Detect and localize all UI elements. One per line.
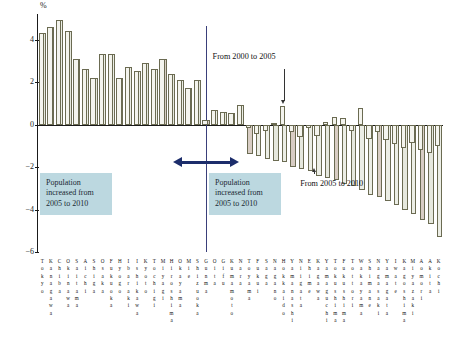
x-axis-label: Nagano <box>271 258 279 302</box>
bar-2000-2005 <box>435 125 440 146</box>
x-axis-label: Hiroshima <box>168 258 176 325</box>
x-axis-label: Gunma <box>202 258 210 295</box>
bar-2000-2005 <box>358 108 363 125</box>
x-axis-labels: TokyoKanagawaChibaOkinawaSaitamaAichiShi… <box>38 258 443 314</box>
x-axis-label: Okayama <box>176 258 184 310</box>
x-axis-label: Fukushima <box>340 258 348 325</box>
bar-2000-2005 <box>99 54 104 124</box>
bar-2000-2005 <box>340 118 345 124</box>
x-axis-label: Aichi <box>81 258 89 295</box>
bar-2000-2005 <box>73 59 78 125</box>
bar-2000-2005 <box>383 125 388 141</box>
x-axis-label: Kochi <box>435 258 443 295</box>
x-axis-label: Niigata <box>297 258 305 310</box>
bar-2000-2005 <box>314 125 319 137</box>
bar-2000-2005 <box>65 31 70 125</box>
x-axis-label: Akita <box>426 258 434 295</box>
x-axis-label: Kagoshima <box>400 258 408 325</box>
bar-2000-2005 <box>254 125 259 135</box>
bar-2000-2005 <box>220 112 225 125</box>
bar-2005-2010 <box>325 125 330 178</box>
x-axis-label: Shiga <box>90 258 98 295</box>
x-axis-label: Iwate <box>392 258 400 295</box>
x-axis-label: Saitama <box>73 258 81 310</box>
bar-2005-2010 <box>377 125 382 197</box>
bar-2000-2005 <box>116 78 121 125</box>
bar-2000-2005 <box>246 125 251 128</box>
bar-group <box>38 14 443 252</box>
bar-2000-2005 <box>306 125 311 128</box>
x-axis-label: Miyagi <box>159 258 167 302</box>
bar-2000-2005 <box>82 69 87 124</box>
bar-2000-2005 <box>375 125 380 132</box>
x-axis-label: Yamanashi <box>288 258 296 325</box>
bar-2000-2005 <box>56 20 61 124</box>
x-axis-label: Okinawa <box>64 258 72 310</box>
bar-2000-2005 <box>168 74 173 125</box>
bar-2005-2010 <box>351 125 356 187</box>
annotation-box-left: Population increased from 2005 to 2010 <box>40 173 112 215</box>
population-change-chart: % 420−2−4−6 Population increased from 20… <box>0 0 453 357</box>
arrow-right-head <box>230 157 239 167</box>
bar-2000-2005 <box>280 106 285 124</box>
bar-2000-2005 <box>263 125 268 131</box>
x-axis-label: Tochigi <box>150 258 158 310</box>
x-axis-label: Osaka <box>99 258 107 295</box>
x-axis-label: Toyama <box>245 258 253 302</box>
bar-2005-2010 <box>282 125 287 162</box>
bar-2000-2005 <box>297 125 302 138</box>
bar-2000-2005 <box>366 125 371 140</box>
x-axis-label: Mie <box>185 258 193 280</box>
bar-2000-2005 <box>323 122 328 124</box>
x-axis-label: Wakayama <box>357 258 365 317</box>
bar-2005-2010 <box>273 125 278 161</box>
bar-2000-2005 <box>332 117 337 124</box>
bar-2000-2005 <box>237 105 242 124</box>
x-axis-label: Kumamoto <box>228 258 236 317</box>
x-axis-label: Ishikawa <box>133 258 141 317</box>
x-axis-label: Nagasaki <box>374 258 382 317</box>
callout-from-2000-to-2005: From 2000 to 2005 <box>213 52 276 61</box>
bar-2000-2005 <box>185 88 190 124</box>
callout-top-arrowhead <box>281 100 285 104</box>
bar-2000-2005 <box>134 71 139 124</box>
arrow-shaft <box>180 161 232 164</box>
x-axis-label: Shimane <box>366 258 374 310</box>
x-axis-label: Miyazaki <box>409 258 417 317</box>
x-axis-label: Saga <box>262 258 270 288</box>
bar-2000-2005 <box>142 63 147 125</box>
y-axis-unit-label: % <box>40 2 47 10</box>
callout-bottom-arrowhead <box>312 168 316 172</box>
callout-top-leader-line <box>284 69 285 101</box>
x-axis-label: Tottori <box>349 258 357 310</box>
bar-2000-2005 <box>271 123 276 125</box>
y-tick-mark <box>35 252 39 253</box>
bar-2000-2005 <box>289 125 294 132</box>
x-axis-label: Oita <box>211 258 219 288</box>
callout-from-2005-to-2010: From 2005 to 2010 <box>300 179 363 188</box>
bar-2005-2010 <box>334 125 339 180</box>
bar-2000-2005 <box>401 125 406 148</box>
bar-2000-2005 <box>159 59 164 125</box>
bar-2005-2010 <box>342 125 347 185</box>
x-axis-label: Ehime <box>305 258 313 295</box>
bar-2000-2005 <box>39 33 44 124</box>
plot-area: % 420−2−4−6 Population increased from 20… <box>38 14 443 252</box>
bar-2000-2005 <box>151 69 156 124</box>
x-axis-label: Shizuoka <box>193 258 201 317</box>
x-axis-label: Kanagawa <box>47 258 55 317</box>
bar-2000-2005 <box>409 125 414 143</box>
bar-2005-2010 <box>308 125 313 172</box>
x-axis-label: Kyoto <box>142 258 150 295</box>
bar-2000-2005 <box>47 27 52 125</box>
bar-2000-2005 <box>228 113 233 125</box>
bar-2005-2010 <box>247 125 252 155</box>
x-axis-label: Tokyo <box>38 258 46 295</box>
x-axis-label: Chiba <box>56 258 64 295</box>
x-axis-label: Yamagata <box>383 258 391 317</box>
bar-2000-2005 <box>418 125 423 151</box>
x-axis-label: Aomori <box>417 258 425 302</box>
bar-2000-2005 <box>90 78 95 125</box>
x-axis-label: Nara <box>237 258 245 288</box>
bar-2000-2005 <box>427 125 432 154</box>
